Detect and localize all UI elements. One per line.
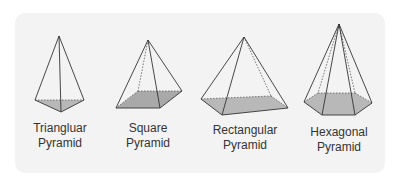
label-line2: Pyramid: [195, 138, 295, 153]
hexagonal-pyramid: [304, 24, 372, 115]
label-square-pyramid: Square Pyramid: [98, 121, 198, 151]
label-line1: Square: [98, 121, 198, 136]
label-hexagonal-pyramid: Hexagonal Pyramid: [289, 125, 389, 155]
label-line1: Hexagonal: [289, 125, 389, 140]
label-triangular-pyramid: Triangluar Pyramid: [10, 121, 110, 151]
square-pyramid: [116, 40, 182, 108]
label-line2: Pyramid: [10, 136, 110, 151]
triangular-pyramid: [35, 36, 84, 112]
label-line1: Rectangular: [195, 123, 295, 138]
rectangular-pyramid: [201, 37, 288, 115]
label-line2: Pyramid: [289, 140, 389, 155]
label-line1: Triangluar: [10, 121, 110, 136]
label-rectangular-pyramid: Rectangular Pyramid: [195, 123, 295, 153]
label-line2: Pyramid: [98, 136, 198, 151]
